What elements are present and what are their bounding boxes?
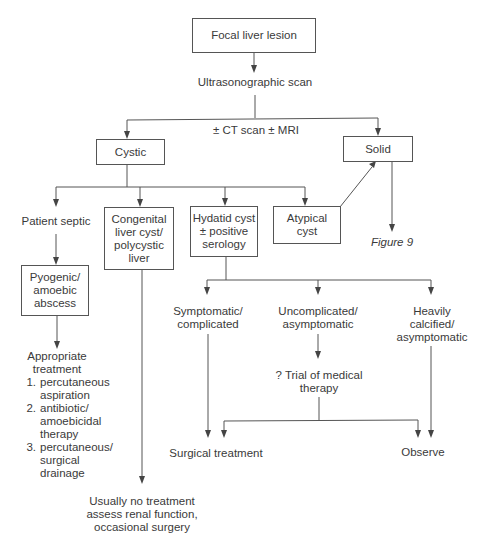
treatment-item: 3. percutaneous/ surgical drainage [24,441,124,480]
congenital-liver-cyst-label: Congenital liver cyst/ polycystic liver [112,213,167,265]
appropriate-treatment-list: Appropriate treatment 1. percutaneous as… [24,350,124,480]
treatment-item: 2. antibiotic/ amoebicidal therapy [24,402,124,441]
treatment-item: 1. percutaneous aspiration [24,376,124,402]
hydatid-cyst-label: Hydatid cyst ± positive serology [193,212,256,251]
pyogenic-abscess-label: Pyogenic/ amoebic abscess [30,271,81,310]
atypical-cyst-box: Atypical cyst [273,206,341,244]
ultrasonographic-scan-label: Ultrasonographic scan [180,76,330,89]
figure9-label: Figure 9 [362,236,422,249]
atypical-cyst-label: Atypical cyst [287,212,327,238]
flowchart: Focal liver lesion Ultrasonographic scan… [0,0,484,543]
uncomplicated-asymptomatic-label: Uncomplicated/ asymptomatic [272,305,364,331]
focal-liver-lesion-box: Focal liver lesion [192,18,316,53]
congenital-liver-cyst-box: Congenital liver cyst/ polycystic liver [104,207,174,270]
usually-no-treatment-label: Usually no treatment assess renal functi… [74,495,210,534]
treatment-item-text: percutaneous/ surgical drainage [40,441,113,480]
ct-mri-label: ± CT scan ± MRI [200,124,312,137]
treatment-item-number: 1. [24,376,40,402]
surgical-treatment-label: Surgical treatment [166,447,266,460]
solid-box: Solid [343,136,413,162]
treatment-item-text: percutaneous aspiration [40,376,110,402]
cystic-label: Cystic [115,146,146,159]
solid-label: Solid [365,143,391,156]
observe-label: Observe [398,446,448,459]
pyogenic-abscess-box: Pyogenic/ amoebic abscess [21,265,89,316]
hydatid-cyst-box: Hydatid cyst ± positive serology [190,206,258,257]
heavily-calcified-label: Heavily calcified/ asymptomatic [388,305,476,344]
appropriate-treatment-heading: Appropriate treatment [24,350,90,376]
trial-medical-therapy-label: ? Trial of medical therapy [268,369,370,395]
cystic-box: Cystic [96,139,165,165]
treatment-item-number: 2. [24,402,40,441]
symptomatic-complicated-label: Symptomatic/ complicated [164,305,252,331]
focal-liver-lesion-label: Focal liver lesion [211,29,297,42]
treatment-item-text: antibiotic/ amoebicidal therapy [40,402,101,441]
patient-septic-label: Patient septic [10,215,102,228]
treatment-item-number: 3. [24,441,40,480]
